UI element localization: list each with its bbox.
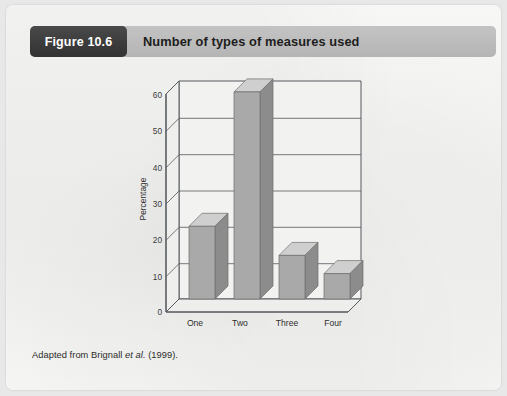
y-tick-label-30: 30 [153, 199, 163, 209]
chart-container: 0 10 20 30 40 50 60 Percentage [136, 67, 386, 337]
caption-italic-source: et al. [125, 350, 145, 360]
bar-four-face [324, 274, 350, 299]
y-tick-label-50: 50 [153, 126, 163, 136]
caption-suffix: (1999). [146, 350, 178, 360]
y-tick-label-40: 40 [153, 163, 163, 173]
figure-number-badge: Figure 10.6 [30, 26, 127, 57]
figure-title: Number of types of measures used [143, 26, 360, 57]
bar-group-one[interactable] [189, 213, 228, 299]
y-tick-label-20: 20 [153, 235, 163, 245]
figure-number-label: Figure 10.6 [45, 35, 113, 49]
figure-header: Figure 10.6 Number of types of measures … [30, 26, 496, 57]
bar-group-three[interactable] [279, 242, 318, 299]
x-tick-label-one: One [187, 318, 203, 328]
figure-page-card: Figure 10.6 Number of types of measures … [6, 5, 501, 390]
bar-two-side [260, 79, 273, 299]
x-tick-label-four: Four [324, 318, 342, 328]
bar-one-face [189, 226, 215, 299]
bar-three-face [279, 255, 305, 299]
x-tick-label-two: Two [232, 318, 248, 328]
y-axis-title: Percentage [138, 177, 148, 220]
bar-group-two[interactable] [234, 79, 273, 299]
caption-prefix: Adapted from Brignall [32, 350, 125, 360]
bar-two-face [234, 92, 260, 299]
x-tick-label-three: Three [276, 318, 299, 328]
y-tick-label-10: 10 [153, 272, 163, 282]
bar-chart: 0 10 20 30 40 50 60 Percentage [136, 67, 386, 337]
plot-floor [166, 299, 361, 312]
y-tick-label-60: 60 [153, 90, 163, 100]
plot-left-wall [166, 81, 179, 312]
y-tick-label-0: 0 [157, 307, 162, 317]
bar-one-side [215, 213, 228, 299]
figure-caption: Adapted from Brignall et al. (1999). [32, 350, 178, 360]
